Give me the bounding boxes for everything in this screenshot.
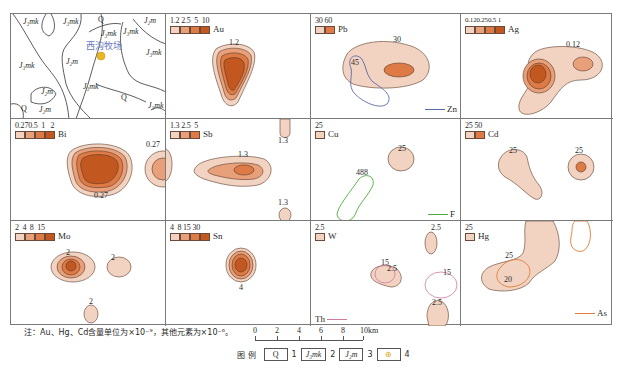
contour-label: 488 <box>356 169 368 177</box>
contour-label: 30 <box>393 36 401 44</box>
geology-label: J₃mk <box>148 102 164 110</box>
contour-label: 4 <box>239 284 243 292</box>
element-symbol: Sb <box>203 130 213 139</box>
panel-sb: 1.3 2.5 5 Sb 1.3 1.3 1.3 <box>166 119 311 221</box>
legend-value: 1.3 <box>170 121 179 130</box>
f-line-swatch <box>428 214 448 215</box>
legend-num: 2 <box>330 350 335 359</box>
contour-label: 0.12 <box>566 41 580 49</box>
swatch-level4 <box>495 26 505 34</box>
legend-value: 2.5 <box>315 223 324 232</box>
scale-tick <box>277 336 278 340</box>
swatch-level1 <box>170 26 180 34</box>
swatch-level2 <box>180 26 190 34</box>
contour-label: 2.5 <box>432 299 442 307</box>
element-symbol: Pb <box>338 25 348 34</box>
legend-value: 25 <box>315 121 323 130</box>
map-legend: 图 例 Q 1 J₃mk 2 J₂m 3 ⊕ 4 <box>237 348 410 361</box>
legend-value: 1.2 <box>170 16 179 25</box>
panel-pb: 30 60 Pb 30 45 Zn <box>311 14 461 119</box>
swatch-level1 <box>465 233 475 241</box>
scale-tick <box>321 336 322 340</box>
scale-tick <box>343 336 344 340</box>
f-line-key: F <box>426 209 455 219</box>
legend-num: 3 <box>367 350 372 359</box>
contour-label: 2.5 <box>387 265 397 273</box>
geology-label: J₃mk <box>146 49 162 57</box>
line-key-label: F <box>450 209 455 219</box>
legend-num: 1 <box>292 350 297 359</box>
scale-tick-label: 0 <box>253 326 257 335</box>
panel-cd: 25 50 Cd 25 25 <box>461 119 613 221</box>
geology-label: J₂m <box>66 58 78 66</box>
legend-value: 0.5 <box>28 121 37 130</box>
geology-label: J₃mk <box>19 62 35 70</box>
swatch-level4 <box>200 233 210 241</box>
contour-label: 25 <box>575 147 583 155</box>
swatch-level3 <box>35 131 45 139</box>
legend-value: 1 <box>41 121 45 130</box>
units-note: 注：Au、Hg、Cd含量单位为×10⁻⁹，其他元素为×10⁻⁶。 <box>24 326 233 337</box>
cu-legend: 25 Cu <box>315 121 339 139</box>
contour-label: 1.3 <box>238 151 248 159</box>
swatch-level3 <box>35 233 45 241</box>
panel-mo: 2 4 8 15 Mo 2 2 2 <box>11 221 166 326</box>
contour-label: 25 <box>505 252 513 260</box>
panel-au: 1.2 2.5 5 10 Au 1.2 <box>166 14 311 119</box>
panel-w: 2.5 W 2.5 15 2.5 15 2.5 Th <box>311 221 461 326</box>
contour-label: 0.27 <box>94 192 108 200</box>
legend-value: 15 <box>37 223 45 232</box>
panel-cu: 25 Cu 25 488 F <box>311 119 461 221</box>
swatch-level1 <box>15 233 25 241</box>
ag-legend: 0.120.250.5 1 Ag <box>465 16 519 34</box>
contour-label: 2.5 <box>431 224 441 232</box>
swatch-level2 <box>475 131 485 139</box>
geology-label: J₃mk <box>23 18 39 26</box>
geology-label: Q <box>21 105 27 113</box>
place-name: 西沟牧场 <box>86 42 122 50</box>
map-legend-title: 图 例 <box>237 349 256 360</box>
swatch-level2 <box>25 233 35 241</box>
swatch-level2 <box>325 26 335 34</box>
legend-symbol-q: Q <box>264 348 288 361</box>
legend-value: 0.12 <box>465 16 476 24</box>
geology-label: J₃mk <box>101 30 117 38</box>
legend-value: 4 <box>22 223 26 232</box>
geology-label: J₃mk <box>83 83 99 91</box>
contour-label: 2 <box>89 298 93 306</box>
swatch-level2 <box>180 233 190 241</box>
swatch-level4 <box>45 233 55 241</box>
geology-label: J₃mk <box>63 18 79 26</box>
swatch-level4 <box>200 26 210 34</box>
scale-bar: 0 2 4 6 8 10km <box>247 326 375 346</box>
element-symbol: Bi <box>58 130 67 139</box>
as-line-swatch <box>575 313 595 314</box>
contour-label: 0.27 <box>146 141 160 149</box>
geochemical-anomaly-grid: J₃mk J₃mk Q J₂m J₃mk J₃mk J₃mk J₃mk J₂m … <box>10 13 612 325</box>
zn-line-key: Zn <box>423 104 457 114</box>
scale-tick-label: 8 <box>341 326 345 335</box>
contour-label: 25 <box>509 147 517 155</box>
zn-line-swatch <box>425 109 445 110</box>
swatch-level1 <box>15 131 25 139</box>
swatch-level2 <box>180 131 190 139</box>
swatch-level3 <box>190 233 200 241</box>
contour-label: 25 <box>398 145 406 153</box>
contour-label: 45 <box>351 59 359 67</box>
contour-label: 20 <box>504 276 512 284</box>
element-symbol: Sn <box>213 232 223 241</box>
au-legend: 1.2 2.5 5 10 Au <box>170 16 224 34</box>
pb-legend: 30 60 Pb <box>315 16 348 34</box>
swatch-level1 <box>465 131 475 139</box>
legend-value: 10 <box>202 16 210 25</box>
swatch-level1 <box>315 26 325 34</box>
swatch-level4 <box>45 131 55 139</box>
legend-num: 4 <box>405 350 410 359</box>
element-symbol: Au <box>213 25 224 34</box>
panel-bi: 0.270.5 1 2 Bi 0.27 0.27 <box>11 119 166 221</box>
swatch-level2 <box>475 26 485 34</box>
legend-value: 4 <box>170 223 174 232</box>
contour-label: 2 <box>111 254 115 262</box>
contour-label: 1.3 <box>278 199 288 207</box>
scale-tick-label: 6 <box>319 326 323 335</box>
